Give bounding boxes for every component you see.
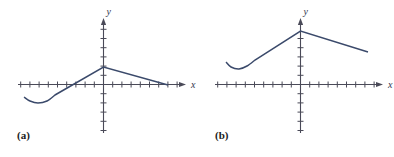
- panel-b: xy (b): [197, 0, 394, 157]
- curve-path: [226, 31, 368, 69]
- figure-container: xy (a) xy (b): [0, 0, 394, 157]
- y-axis-arrowhead: [298, 18, 303, 25]
- panel-a-label: (a): [17, 130, 30, 141]
- x-axis-arrowhead: [376, 82, 383, 87]
- y-axis-arrowhead: [101, 18, 106, 25]
- panel-a: xy (a): [0, 0, 197, 157]
- panel-b-label: (b): [215, 130, 228, 141]
- axes-group: [215, 18, 383, 133]
- y-axis-label: y: [106, 6, 112, 17]
- axes-group: [18, 18, 186, 133]
- x-axis-label: x: [190, 79, 196, 90]
- y-axis-label: y: [303, 6, 309, 17]
- x-axis-arrowhead: [179, 82, 186, 87]
- x-axis-label: x: [387, 79, 393, 90]
